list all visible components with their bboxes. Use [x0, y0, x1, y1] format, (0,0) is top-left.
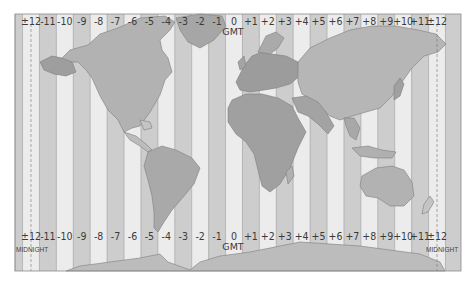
zone-label: -7: [111, 15, 120, 27]
gmt-label-bottom: GMT: [222, 241, 244, 252]
zone-label: +2: [261, 15, 275, 27]
zone-label: -6: [128, 15, 137, 27]
zone-label: -11: [40, 230, 55, 242]
zone-label: -4: [162, 15, 171, 27]
zone-label: +9: [379, 15, 393, 27]
zone-label: +1: [244, 230, 258, 242]
zone-label: +6: [329, 15, 343, 27]
zone-label: -9: [77, 15, 86, 27]
zone-label: -6: [128, 230, 137, 242]
zone-label: +9: [379, 230, 393, 242]
zone-label: +5: [312, 230, 326, 242]
zone-label: -8: [94, 230, 103, 242]
zone-label: -1: [212, 15, 221, 27]
zone-label: -4: [162, 230, 171, 242]
zone-label: +1: [244, 15, 258, 27]
zone-label: -1: [212, 230, 221, 242]
gmt-label-top: GMT: [222, 26, 244, 37]
zone-label: -11: [40, 15, 55, 27]
zone-label: +4: [295, 230, 309, 242]
zone-label: ±12: [21, 230, 41, 242]
zone-label: +5: [312, 15, 326, 27]
zone-label: -8: [94, 15, 103, 27]
zone-label: +8: [362, 230, 376, 242]
zone-label: ±12: [21, 15, 41, 27]
zone-label: -2: [195, 15, 204, 27]
zone-label: -5: [145, 230, 154, 242]
zone-label: +8: [362, 15, 376, 27]
zone-label: -10: [57, 15, 72, 27]
zone-label: -10: [57, 230, 72, 242]
zone-label: +4: [295, 15, 309, 27]
zone-label: -5: [145, 15, 154, 27]
zone-label: +3: [278, 15, 292, 27]
zone-label: +7: [345, 230, 359, 242]
zone-label: +2: [261, 230, 275, 242]
time-zone-map: ±12-11-10-9-8-7-6-5-4-3-2-10+1+2+3+4+5+6…: [0, 0, 476, 285]
zone-label: +3: [278, 230, 292, 242]
zone-label: -9: [77, 230, 86, 242]
zone-label: -2: [195, 230, 204, 242]
zone-label: -3: [179, 15, 188, 27]
zone-label: -3: [179, 230, 188, 242]
zone-label: -7: [111, 230, 120, 242]
zone-label: ±12: [427, 15, 447, 27]
midnight-label-left: MIDNIGHT: [16, 246, 48, 253]
zone-label: +7: [345, 15, 359, 27]
midnight-label-right: MIDNIGHT: [426, 246, 458, 253]
zone-label: ±12: [427, 230, 447, 242]
zone-stripe: [445, 14, 461, 271]
zone-label: +6: [329, 230, 343, 242]
